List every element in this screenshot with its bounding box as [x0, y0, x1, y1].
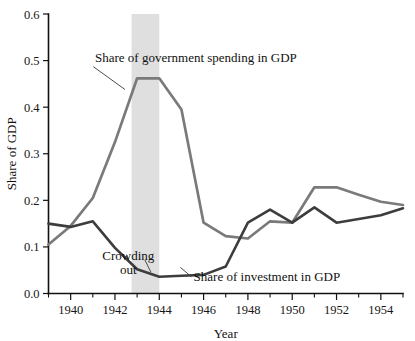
investment-series-label: Share of investment in GDP [194, 269, 341, 284]
x-tick-label: 1950 [280, 303, 305, 317]
crowding-out-label-line1: Crowding [102, 248, 155, 263]
y-axis-title: Share of GDP [4, 117, 19, 190]
share-of-gdp-line-chart: 0.00.10.20.30.40.50.6 194019421944194619… [0, 0, 415, 341]
x-tick-label: 1952 [324, 303, 349, 317]
x-tick-label: 1944 [147, 303, 173, 317]
x-tick-label: 1954 [368, 303, 394, 317]
y-tick-label: 0.0 [24, 287, 40, 301]
x-tick-label: 1940 [58, 303, 83, 317]
x-tick-label: 1942 [102, 303, 127, 317]
y-tick-label: 0.2 [24, 194, 40, 208]
x-tick-label: 1948 [235, 303, 260, 317]
y-tick-label: 0.3 [24, 147, 40, 161]
x-axis-title: Year [214, 326, 239, 341]
y-tick-label: 0.4 [24, 101, 40, 115]
crowding-out-label-line2: out [120, 262, 137, 277]
chart-figure: 0.00.10.20.30.40.50.6 194019421944194619… [0, 0, 415, 341]
x-tick-label: 1946 [191, 303, 216, 317]
y-tick-label: 0.5 [24, 54, 40, 68]
y-tick-label: 0.1 [24, 240, 40, 254]
y-tick-label: 0.6 [24, 8, 40, 22]
government-series-label: Share of government spending in GDP [95, 50, 297, 65]
